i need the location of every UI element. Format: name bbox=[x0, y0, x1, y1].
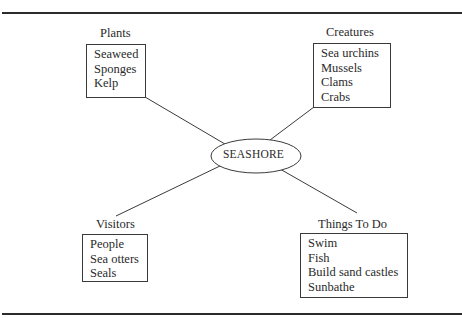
list-item: Build sand castles bbox=[308, 265, 401, 280]
list-item: Kelp bbox=[94, 76, 139, 91]
branch-box-things-to-do: Swim Fish Build sand castles Sunbathe bbox=[300, 233, 408, 298]
list-item: Seals bbox=[90, 266, 141, 281]
connector-plants bbox=[145, 97, 230, 147]
list-item: Sponges bbox=[94, 62, 139, 77]
center-label: SEASHORE bbox=[223, 148, 284, 160]
list-item: People bbox=[90, 237, 141, 252]
connector-things-to-do bbox=[273, 165, 357, 213]
connector-visitors bbox=[116, 165, 222, 216]
branch-title-plants: Plants bbox=[100, 26, 131, 40]
list-item: Fish bbox=[308, 251, 401, 266]
list-item: Seaweed bbox=[94, 47, 139, 62]
branch-title-things-to-do: Things To Do bbox=[318, 217, 387, 231]
branch-box-visitors: People Sea otters Seals bbox=[82, 234, 148, 282]
list-item: Sea urchins bbox=[321, 46, 384, 61]
connector-creatures bbox=[270, 107, 314, 140]
branch-box-plants: Seaweed Sponges Kelp bbox=[86, 44, 146, 98]
branch-title-visitors: Visitors bbox=[96, 217, 135, 231]
branch-title-creatures: Creatures bbox=[326, 25, 374, 39]
list-item: Mussels bbox=[321, 61, 384, 76]
list-item: Sea otters bbox=[90, 252, 141, 267]
list-item: Sunbathe bbox=[308, 280, 401, 295]
list-item: Clams bbox=[321, 75, 384, 90]
branch-box-creatures: Sea urchins Mussels Clams Crabs bbox=[313, 43, 391, 108]
list-item: Crabs bbox=[321, 90, 384, 105]
list-item: Swim bbox=[308, 236, 401, 251]
